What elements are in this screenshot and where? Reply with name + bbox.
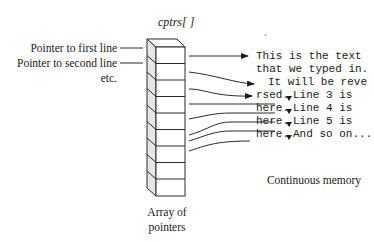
stray-mark: ` xyxy=(264,33,267,43)
continuous-memory: This is the text that we typed in. It wi… xyxy=(256,50,372,140)
memory-line: And so on... xyxy=(293,128,372,140)
memory-line: Line 5 is xyxy=(293,115,352,127)
array-caption-line1: Array of xyxy=(147,206,186,219)
memory-line: It will be reve xyxy=(268,76,367,88)
memory-line: here. xyxy=(256,102,289,114)
memory-line: here. xyxy=(256,128,289,140)
label-first-line: Pointer to first line xyxy=(30,42,117,54)
array-title: cptrs[ ] xyxy=(158,15,195,29)
memory-line: Line 3 is xyxy=(293,89,352,101)
memory-caption: Continuous memory xyxy=(267,174,361,187)
memory-line: here. xyxy=(256,115,289,127)
label-second-line: Pointer to second line xyxy=(17,57,117,69)
memory-line: that we typed in. xyxy=(256,63,368,75)
array-caption-line2: pointers xyxy=(148,221,186,234)
pointer-array xyxy=(147,39,185,196)
pointer-array-diagram: cptrs[ ] Pointer to first line Pointer t… xyxy=(0,0,374,242)
memory-line: Line 4 is xyxy=(293,102,352,114)
label-etc: etc. xyxy=(101,72,117,84)
memory-line: rsed. xyxy=(256,89,289,101)
memory-line: This is the text xyxy=(256,50,362,62)
